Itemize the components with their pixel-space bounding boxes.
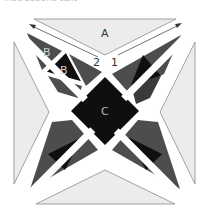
quilt-block-diagram: A B B C 2 1 <box>0 0 208 219</box>
label-c: C <box>101 105 109 118</box>
label-a: A <box>101 27 109 40</box>
label-b-inner: B <box>60 64 68 77</box>
label-arrow-2: 2 <box>93 56 100 69</box>
label-arrow-1: 1 <box>111 56 118 69</box>
piece-bottom-triangle <box>36 170 175 204</box>
label-b-outer: B <box>43 46 51 59</box>
